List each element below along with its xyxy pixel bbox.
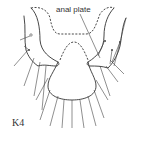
dashed-inner-dome [60, 42, 88, 60]
seta [94, 90, 104, 118]
seta-socket [28, 49, 30, 51]
setae [14, 18, 126, 128]
anal-plate-label: anal plate [56, 5, 91, 14]
right-lobe-outline [87, 8, 126, 68]
seta-socket [30, 34, 32, 36]
seta-socket [111, 49, 113, 51]
seta [62, 100, 64, 128]
seta [24, 58, 34, 86]
central-plate-outline [48, 62, 96, 100]
seta [40, 90, 50, 120]
seta [114, 18, 126, 66]
seta [88, 96, 96, 126]
seta [36, 78, 48, 100]
seta [96, 80, 108, 100]
seta [14, 50, 28, 66]
seta [100, 66, 110, 96]
seta [34, 62, 40, 96]
seta [80, 100, 84, 128]
seta [98, 42, 104, 56]
left-lobe-outline [24, 8, 59, 66]
seta [50, 96, 58, 126]
seta [106, 66, 118, 82]
annotation-leader-line [80, 14, 100, 58]
seta [110, 60, 124, 74]
anal-plate-diagram: anal plate K4 [0, 0, 143, 148]
specimen-label: K4 [12, 117, 24, 128]
seta-socket [104, 40, 106, 42]
